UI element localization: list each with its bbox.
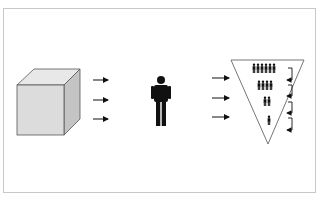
arrows-to-person [93,80,108,119]
funnel-triangle [231,60,304,144]
cube-icon [17,69,80,135]
arrows-to-funnel [212,78,229,117]
diagram-canvas [0,0,322,202]
person-icon [151,76,171,126]
